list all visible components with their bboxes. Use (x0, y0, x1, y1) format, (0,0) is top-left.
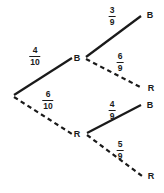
probability-tree-diagram: B R B R B R 4 10 6 10 3 9 6 9 4 9 5 9 (0, 0, 164, 193)
branch-r-r (87, 135, 142, 176)
node-label-level1-b: B (74, 54, 81, 63)
fraction-numerator: 6 (42, 90, 53, 100)
fraction-denominator: 9 (117, 64, 124, 73)
fraction-numerator: 5 (117, 140, 124, 150)
node-label-level2-rr: R (148, 172, 155, 181)
fraction-numerator: 4 (109, 100, 116, 110)
branch-b-r (86, 59, 142, 88)
node-label-level1-r: R (74, 130, 81, 139)
fraction-numerator: 6 (117, 52, 124, 62)
branch-probability-b-r: 6 9 (117, 52, 124, 72)
branch-probability-b-b: 3 9 (109, 6, 116, 26)
fraction-denominator: 10 (29, 58, 40, 67)
fraction-numerator: 4 (29, 46, 40, 56)
branch-probability-r-b: 4 9 (109, 100, 116, 120)
fraction-denominator: 9 (109, 112, 116, 121)
branch-probability-root-r: 6 10 (42, 90, 53, 110)
node-label-level2-bb: B (147, 11, 154, 20)
tree-branches-svg (0, 0, 164, 193)
node-label-level2-br: R (148, 84, 155, 93)
fraction-denominator: 9 (117, 152, 124, 161)
node-label-level2-rb: B (147, 101, 154, 110)
fraction-denominator: 9 (109, 18, 116, 27)
branch-probability-r-r: 5 9 (117, 140, 124, 160)
fraction-numerator: 3 (109, 6, 116, 16)
branch-probability-root-b: 4 10 (29, 46, 40, 66)
fraction-denominator: 10 (42, 102, 53, 111)
